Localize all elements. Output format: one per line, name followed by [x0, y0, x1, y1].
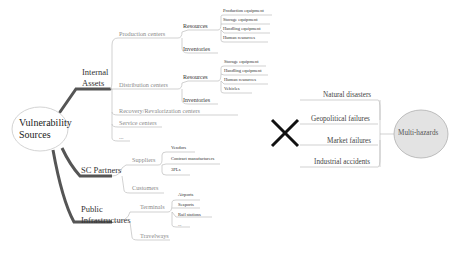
branch-internal-label-2: Assets	[82, 79, 104, 88]
leaf-human-resources-1: Human resources	[223, 36, 255, 41]
leaf-human-resources-2: Human resources	[224, 78, 256, 83]
leaf-3pls: 3PLs	[171, 168, 180, 173]
leaf-terminals-more: ...	[178, 223, 181, 228]
node-production-inventories: Inventories	[183, 46, 210, 52]
root-label-line2: Sources	[19, 130, 51, 140]
hazard-natural-disasters: Natural disasters	[323, 92, 371, 99]
hazard-geopolitical-failures: Geopolitical failures	[311, 116, 370, 123]
branch-public-label-1: Public	[81, 205, 103, 214]
leaf-vendors: Vendors	[171, 146, 186, 151]
leaf-handling-equipment-2: Handling equipment	[224, 69, 262, 74]
cross-icon	[272, 120, 298, 146]
leaf-storage-equipment-1: Storage equipment	[223, 18, 258, 23]
leaf-production-equipment: Production equipment	[223, 9, 264, 14]
node-suppliers: Suppliers	[132, 157, 155, 163]
hazard-industrial-accidents: Industrial accidents	[314, 159, 370, 166]
multi-hazards-label: Multi-hazards	[398, 130, 438, 137]
node-service-centers: Service centers	[119, 120, 157, 126]
node-recovery-centers: Recovery/Revalorization centers	[119, 108, 200, 114]
leaf-vehicles: Vehicles	[224, 87, 240, 92]
leaf-seaports: Seaports	[178, 203, 194, 208]
node-travelways: Travelways	[140, 233, 169, 239]
branch-internal-assets	[60, 89, 110, 112]
leaf-storage-equipment-2: Storage equipment	[224, 60, 259, 65]
node-distribution-inventories: Inventories	[183, 97, 210, 103]
branch-internal-label-1: Internal	[82, 68, 108, 77]
hazard-market-failures: Market failures	[327, 138, 371, 145]
branch-sc-partners-label: SC Partners	[81, 166, 121, 175]
node-production-centers: Production centers	[119, 31, 165, 37]
root-label-line1: Vulnerability	[19, 118, 72, 128]
node-terminals: Terminals	[140, 204, 165, 210]
node-internal-more: ...	[119, 134, 124, 140]
leaf-airports: Airports	[178, 193, 193, 198]
node-customers: Customers	[132, 185, 158, 191]
node-production-resources: Resources	[183, 23, 208, 29]
leaf-rail-stations: Rail stations	[178, 213, 201, 218]
node-distribution-centers: Distribution centers	[119, 82, 168, 88]
leaf-contract-manufacturers: Contract manufacturers	[171, 157, 214, 162]
branch-public-label-2: Infrastructures	[81, 216, 131, 225]
leaf-handling-equipment-1: Handling equipment	[223, 27, 261, 32]
node-distribution-resources: Resources	[183, 74, 208, 80]
